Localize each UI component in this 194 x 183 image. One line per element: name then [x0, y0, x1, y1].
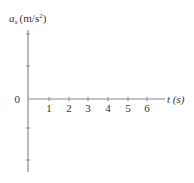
y-axis-label: ax(m/s2) — [9, 12, 47, 26]
x-tick-label: 4 — [105, 102, 111, 114]
x-tick-label: 6 — [144, 102, 150, 114]
graph-axes: 1 2 3 4 5 6 0 t (s) ax(m/s2) — [0, 0, 194, 183]
y-axis-units-close: ) — [43, 12, 47, 25]
x-tick-label: 2 — [66, 102, 72, 114]
x-axis-label: t (s) — [167, 93, 185, 106]
y-axis-subscript: x — [14, 18, 19, 26]
x-tick-label: 5 — [125, 102, 131, 114]
x-tick-label: 1 — [46, 102, 52, 114]
x-tick-label: 3 — [85, 102, 91, 114]
origin-label: 0 — [15, 93, 21, 105]
y-axis-units: (m/s — [20, 12, 40, 25]
